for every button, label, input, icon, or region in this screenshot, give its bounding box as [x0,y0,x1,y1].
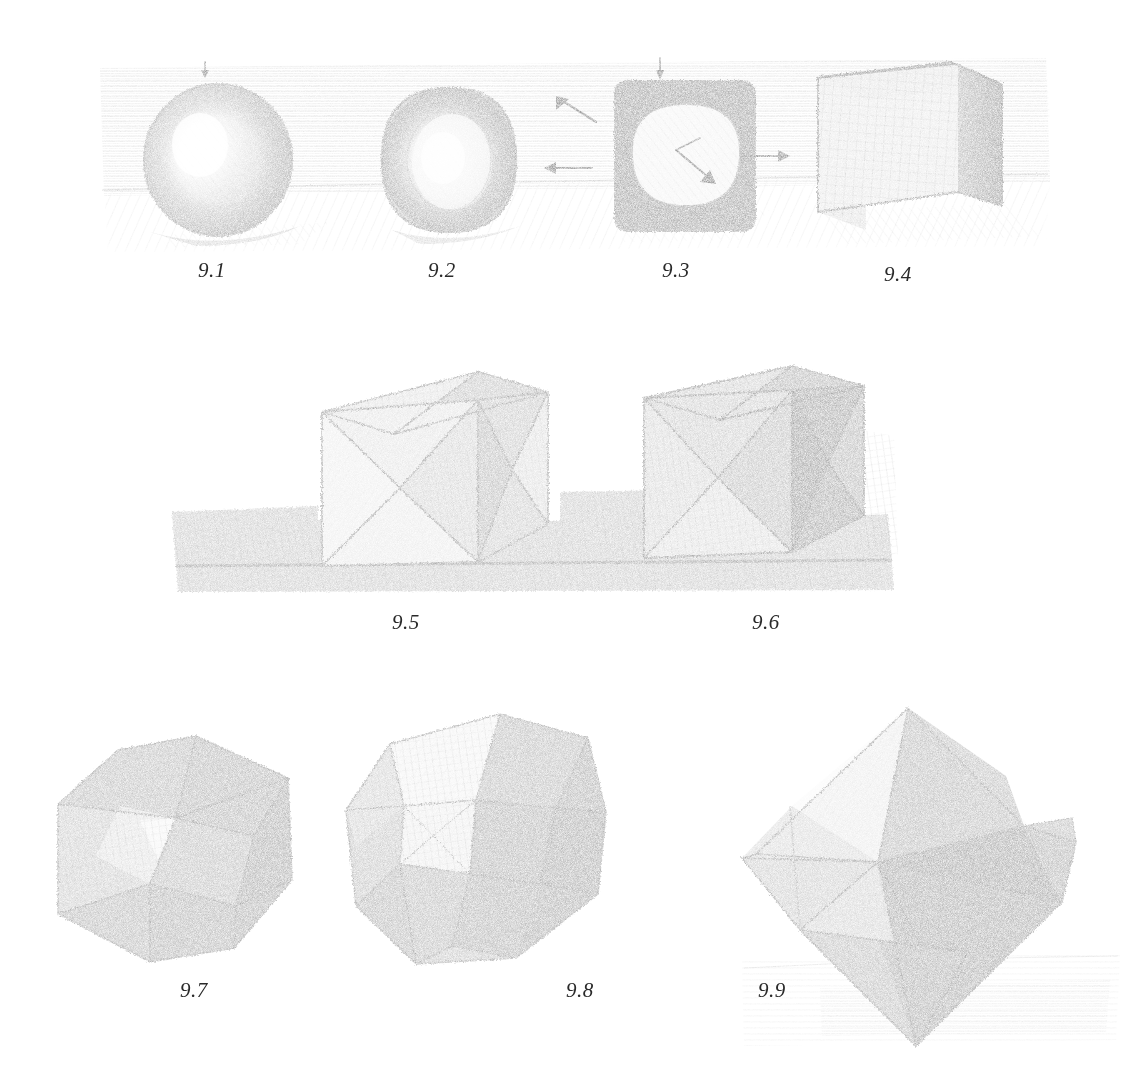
drawing-plate: 9.1 9.2 9.3 9.4 9.5 9.6 9.7 9.8 9.9 [0,0,1148,1081]
figure-label-9-1: 9.1 [198,258,226,283]
arrow-tick-top-9-3 [656,58,664,80]
figure-label-9-8: 9.8 [566,978,594,1003]
arrow-tick-top-9-1 [201,62,209,78]
figure-9-1-sphere [144,84,330,248]
figure-label-9-6: 9.6 [752,610,780,635]
figure-9-8-rhombic-dodecahedron [346,714,606,964]
arrow-left-between-9-2-and-9-3 [544,162,592,174]
figure-9-3-rounded-cube [614,80,770,242]
figure-label-9-5: 9.5 [392,610,420,635]
figure-9-5-hollow-cube-light [322,372,548,566]
row-top-ground-plane [100,58,1050,252]
row-top-sphere-to-cube [100,58,1050,252]
figure-9-2-rounded-sphere [381,88,520,244]
pencil-drawing-canvas [0,0,1148,1081]
figure-label-9-3: 9.3 [662,258,690,283]
figure-label-9-7: 9.7 [180,978,208,1003]
figure-label-9-4: 9.4 [884,262,912,287]
arrow-up-left-above-9-3 [556,96,596,122]
row-top-arrows [201,58,790,184]
arrow-radius-inside-9-3 [676,138,716,184]
arrow-right-between-9-3-and-9-4 [742,150,790,162]
figure-9-7-rhombic-polyhedron [58,736,292,962]
figure-label-9-9: 9.9 [758,978,786,1003]
figure-9-6-hollow-cube-dark [644,366,898,558]
row-middle-ground [172,488,894,592]
row-middle-hollow-cubes [172,366,898,592]
figure-9-9-stellated-octahedron [742,708,1120,1046]
figure-9-4-cube [818,62,1040,244]
figure-label-9-2: 9.2 [428,258,456,283]
